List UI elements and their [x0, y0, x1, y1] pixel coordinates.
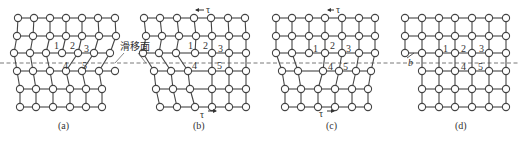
atom [281, 103, 288, 110]
atom [242, 67, 249, 74]
atom [111, 67, 118, 74]
lattice-bonds [276, 18, 375, 107]
atom [192, 32, 199, 39]
shear-arrow-bottom-b: τ [200, 109, 217, 120]
atom-label-3: 3 [218, 43, 223, 54]
atom [272, 49, 279, 56]
panel-b: 12345 [139, 14, 249, 110]
atom [208, 49, 215, 56]
atom [98, 103, 105, 110]
panel-c: 12345 [272, 14, 378, 110]
leader-line-left [115, 53, 124, 63]
atom-label-5: 5 [478, 61, 483, 72]
atom [288, 32, 295, 39]
atom [272, 32, 279, 39]
atom-label-4: 4 [192, 60, 197, 71]
atom [186, 85, 193, 92]
atom [241, 14, 248, 21]
atom [98, 85, 105, 92]
atom [14, 14, 21, 21]
atom [29, 67, 36, 74]
atom [78, 32, 85, 39]
atom [305, 32, 312, 39]
atom [468, 85, 475, 92]
atom [78, 14, 85, 21]
caption-d: (d) [455, 120, 467, 132]
atom [319, 67, 326, 74]
slip-plane-label-group: 滑移面 [115, 40, 150, 63]
atom [190, 14, 197, 21]
atom [272, 14, 279, 21]
atom [451, 14, 458, 21]
atom [321, 32, 328, 39]
atom [46, 14, 53, 21]
atom [62, 32, 69, 39]
atom [352, 67, 359, 74]
atom [331, 103, 338, 110]
lattice-bonds [405, 18, 506, 107]
atom [242, 49, 249, 56]
atom-label-1: 1 [54, 40, 59, 51]
atom [451, 103, 458, 110]
atom [451, 49, 458, 56]
atom [468, 14, 475, 21]
atom [111, 14, 118, 21]
atom-number-labels: 12345 [443, 43, 484, 72]
atom [435, 49, 442, 56]
atom-label-4: 4 [461, 61, 466, 72]
atom [58, 49, 65, 56]
atom [401, 14, 408, 21]
atom-label-1: 1 [313, 43, 318, 54]
atom [16, 103, 23, 110]
atom [418, 103, 425, 110]
atom-label-2: 2 [330, 40, 335, 51]
atom [297, 103, 304, 110]
atom [173, 103, 180, 110]
svg-text:τ: τ [336, 4, 340, 15]
atom [150, 67, 157, 74]
atom [49, 85, 56, 92]
panel-a: 12345 [10, 14, 119, 110]
atom [297, 85, 304, 92]
atom [225, 85, 232, 92]
atom-number-labels: 12345 [313, 40, 351, 72]
atom [10, 49, 17, 56]
caption-c: (c) [326, 120, 337, 132]
atom [288, 14, 295, 21]
atom [485, 85, 492, 92]
slip-plane-label: 滑移面 [120, 40, 150, 52]
atom [418, 49, 425, 56]
atom [242, 85, 249, 92]
svg-text:τ: τ [200, 109, 204, 120]
atom [62, 14, 69, 21]
atom [355, 14, 362, 21]
atom-label-3: 3 [346, 43, 351, 54]
atom [95, 32, 102, 39]
atom [207, 14, 214, 21]
atom [348, 103, 355, 110]
atom [184, 67, 191, 74]
atom-label-2: 2 [203, 40, 208, 51]
atom [224, 14, 231, 21]
atom-label-4: 4 [63, 60, 68, 71]
atom [338, 32, 345, 39]
atom [371, 32, 378, 39]
atom-label-2: 2 [461, 43, 466, 54]
atom [173, 14, 180, 21]
atom-label-3: 3 [479, 43, 484, 54]
atom [278, 67, 285, 74]
atom [155, 49, 162, 56]
atom [294, 67, 301, 74]
atom [305, 49, 312, 56]
atom-label-5: 5 [343, 61, 348, 72]
atom [485, 103, 492, 110]
atom [167, 67, 174, 74]
atom [321, 49, 328, 56]
atom [485, 67, 492, 74]
burgers-label: b [408, 57, 413, 68]
shear-arrow-top-c: τ [327, 4, 340, 15]
atom [435, 32, 442, 39]
atom [451, 32, 458, 39]
svg-text:τ: τ [206, 4, 210, 15]
atom [338, 14, 345, 21]
